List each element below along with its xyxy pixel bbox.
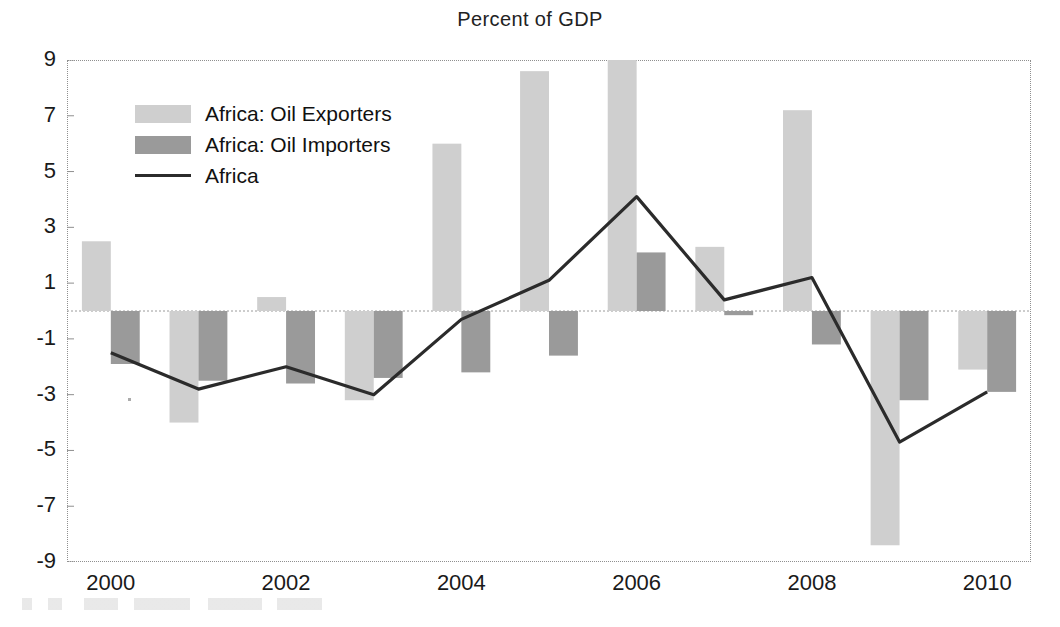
- y-tick-label: -9: [8, 550, 56, 572]
- bar-oil-exporters: [257, 297, 286, 311]
- y-tick-label: -5: [8, 438, 56, 460]
- legend-swatch-icon-exporters: [135, 105, 191, 123]
- legend-label-importers: Africa: Oil Importers: [205, 133, 391, 157]
- y-tick-label: 1: [8, 271, 56, 293]
- bar-oil-exporters: [82, 241, 111, 311]
- y-tick-label: -1: [8, 327, 56, 349]
- y-tick-label: 9: [8, 48, 56, 70]
- bar-oil-importers: [637, 252, 666, 311]
- x-tick-label: 2004: [416, 572, 506, 594]
- bar-oil-importers: [900, 311, 929, 400]
- y-tick-label: -7: [8, 494, 56, 516]
- bar-oil-importers: [812, 311, 841, 344]
- y-tick-label: 7: [8, 104, 56, 126]
- bar-oil-exporters: [608, 60, 637, 311]
- bar-oil-importers: [374, 311, 403, 378]
- bar-oil-importers: [549, 311, 578, 356]
- chart-legend: Africa: Oil Exporters Africa: Oil Import…: [135, 98, 435, 191]
- y-tick-label: -3: [8, 383, 56, 405]
- bar-oil-exporters: [958, 311, 987, 370]
- x-tick-label: 2010: [942, 572, 1032, 594]
- chart-figure: Percent of GDP 97531-1-3-5-7-9 200020022…: [0, 0, 1060, 627]
- bar-oil-importers: [461, 311, 490, 372]
- legend-line-icon-africa: [135, 174, 191, 177]
- legend-label-africa: Africa: [205, 164, 259, 188]
- x-tick-label: 2000: [66, 572, 156, 594]
- bar-oil-exporters: [871, 311, 900, 545]
- scan-speck: [128, 398, 131, 401]
- bar-oil-exporters: [520, 71, 549, 311]
- legend-item-africa: Africa: [135, 160, 435, 191]
- chart-title: Percent of GDP: [0, 8, 1060, 31]
- bar-oil-exporters: [695, 247, 724, 311]
- bar-oil-importers: [987, 311, 1016, 392]
- x-tick-label: 2008: [767, 572, 857, 594]
- legend-label-exporters: Africa: Oil Exporters: [205, 102, 392, 126]
- bar-oil-importers: [724, 311, 753, 315]
- page-footnote-smudge: [22, 598, 442, 610]
- bar-oil-importers: [198, 311, 227, 381]
- bar-oil-exporters: [432, 144, 461, 311]
- legend-swatch-icon-importers: [135, 136, 191, 154]
- x-tick-label: 2002: [241, 572, 331, 594]
- bar-oil-exporters: [170, 311, 199, 423]
- y-tick-label: 5: [8, 160, 56, 182]
- x-tick-label: 2006: [592, 572, 682, 594]
- y-tick-label: 3: [8, 215, 56, 237]
- legend-item-oil-importers: Africa: Oil Importers: [135, 129, 435, 160]
- legend-item-oil-exporters: Africa: Oil Exporters: [135, 98, 435, 129]
